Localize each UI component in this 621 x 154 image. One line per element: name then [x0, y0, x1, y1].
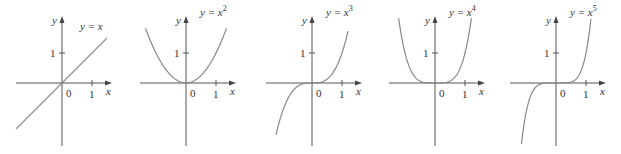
y-tick-label: 1 [423, 47, 429, 59]
function-label: y = x4 [448, 4, 476, 18]
origin-label: 0 [439, 87, 445, 99]
y-tick-label: 1 [50, 47, 56, 59]
x-axis-label: x [599, 85, 605, 97]
panel-p1: 011xyy = x [16, 14, 112, 146]
x-axis-label: x [478, 85, 484, 97]
origin-label: 0 [560, 87, 566, 99]
panel-p2: 011xyy = x2 [140, 4, 236, 146]
y-axis-label: y [424, 14, 430, 26]
x-axis-label: x [229, 85, 235, 97]
panel-p4: 011xyy = x4 [389, 4, 485, 146]
function-label: y = x [79, 20, 103, 32]
y-axis-label: y [51, 14, 57, 26]
y-axis-arrow-icon [310, 16, 315, 23]
function-label: y = x5 [569, 4, 597, 18]
y-axis-arrow-icon [433, 16, 438, 23]
x-tick-label: 1 [339, 88, 345, 100]
x-tick-label: 1 [462, 88, 468, 100]
y-axis-arrow-icon [184, 16, 189, 23]
y-tick-label: 1 [174, 47, 180, 59]
panel-p3: 011xyy = x3 [266, 4, 362, 146]
x-tick-label: 1 [89, 88, 95, 100]
panel-p5: 011xyy = x5 [510, 4, 606, 146]
y-axis-label: y [545, 14, 551, 26]
y-tick-label: 1 [544, 47, 550, 59]
x-axis-label: x [355, 85, 361, 97]
function-label: y = x3 [325, 4, 353, 18]
function-label: y = x2 [199, 4, 227, 18]
origin-label: 0 [316, 87, 322, 99]
y-axis-arrow-icon [554, 16, 559, 23]
origin-label: 0 [66, 87, 72, 99]
origin-label: 0 [190, 87, 196, 99]
power-functions-figure: 011xyy = x011xyy = x2011xyy = x3011xyy =… [0, 0, 621, 154]
y-axis-label: y [301, 14, 307, 26]
y-axis-label: y [175, 14, 181, 26]
x-tick-label: 1 [583, 88, 589, 100]
y-axis-arrow-icon [60, 16, 65, 23]
y-tick-label: 1 [300, 47, 306, 59]
x-tick-label: 1 [213, 88, 219, 100]
x-axis-label: x [105, 85, 111, 97]
